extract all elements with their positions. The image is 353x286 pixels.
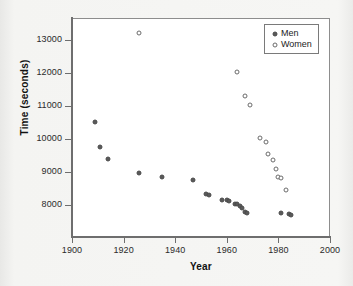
y-tick-mark — [65, 205, 71, 206]
y-tick-label: 12000 — [36, 67, 62, 77]
y-tick-label: 9000 — [42, 166, 62, 176]
data-point-women — [266, 151, 271, 156]
scatter-plot-figure: 8000900010000110001200013000 19001920194… — [0, 0, 353, 286]
y-axis-title: Time (seconds) — [19, 28, 30, 168]
x-tick-mark — [278, 238, 279, 243]
y-tick-mark — [65, 106, 71, 107]
data-point-women — [263, 139, 268, 144]
legend-item-men: Men — [269, 28, 312, 39]
data-point-men — [289, 213, 294, 218]
data-point-women — [248, 103, 253, 108]
data-point-women — [235, 70, 240, 75]
y-tick-mark — [65, 73, 71, 74]
data-point-men — [191, 178, 196, 183]
data-point-women — [278, 175, 283, 180]
x-tick-label: 1980 — [268, 245, 288, 255]
x-axis-title: Year — [72, 261, 330, 272]
data-point-men — [106, 156, 111, 161]
legend-item-women: Women — [269, 39, 312, 50]
data-point-women — [273, 167, 278, 172]
x-tick-label: 1920 — [113, 245, 133, 255]
data-point-women — [284, 188, 289, 193]
y-tick-mark — [65, 172, 71, 173]
data-point-men — [245, 210, 250, 215]
figure-screenshot: 8000900010000110001200013000 19001920194… — [0, 0, 353, 286]
y-tick-label: 8000 — [42, 199, 62, 209]
y-tick-label: 11000 — [37, 100, 62, 110]
x-tick-label: 1900 — [62, 245, 82, 255]
x-tick-label: 2000 — [320, 245, 340, 255]
x-tick-label: 1940 — [165, 245, 185, 255]
x-tick-mark — [175, 238, 176, 243]
x-tick-mark — [330, 238, 331, 243]
data-point-women — [271, 158, 276, 163]
data-point-women — [242, 94, 247, 99]
x-tick-mark — [72, 238, 73, 243]
legend: Men Women — [264, 24, 319, 54]
data-point-men — [98, 145, 103, 150]
data-point-men — [160, 175, 165, 180]
filled-circle-icon — [269, 28, 281, 39]
data-point-men — [137, 170, 142, 175]
legend-label-women: Women — [281, 39, 312, 50]
x-tick-mark — [124, 238, 125, 243]
y-tick-mark — [65, 40, 71, 41]
data-point-men — [93, 119, 98, 124]
data-point-women — [137, 31, 142, 36]
open-circle-icon — [269, 39, 281, 50]
x-tick-mark — [227, 238, 228, 243]
x-axis-line — [71, 236, 331, 238]
x-tick-label: 1960 — [217, 245, 237, 255]
data-point-women — [258, 135, 263, 140]
data-point-men — [206, 193, 211, 198]
y-axis-line — [71, 17, 73, 238]
y-tick-label: 10000 — [36, 133, 62, 143]
y-tick-label: 13000 — [36, 34, 62, 44]
y-tick-mark — [65, 139, 71, 140]
data-point-men — [278, 210, 283, 215]
legend-label-men: Men — [281, 28, 299, 39]
